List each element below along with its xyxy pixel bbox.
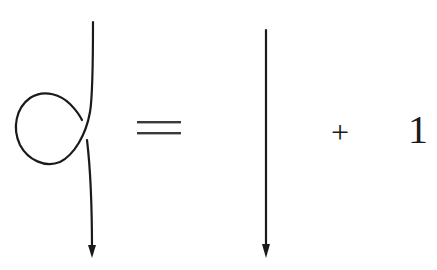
- kink-under-strand: [87, 140, 92, 250]
- equals-sign: [137, 121, 181, 134]
- kinked-strand-icon: [16, 22, 96, 258]
- plus-operator: +: [331, 116, 349, 148]
- arrow-down-icon: [88, 245, 96, 258]
- kink-over-strand: [16, 22, 93, 164]
- diagram-canvas: [0, 0, 437, 270]
- straight-strand-icon: [262, 30, 270, 258]
- arrow-down-icon: [262, 244, 270, 258]
- constant-one: 1: [408, 110, 428, 150]
